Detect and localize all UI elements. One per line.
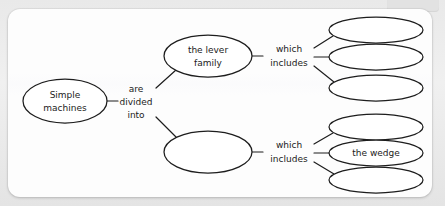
link-are-divided-into-line3: into	[127, 110, 145, 120]
node-lever-child-3[interactable]	[329, 75, 423, 101]
link-are-divided-into-line2: divided	[119, 97, 152, 107]
concept-map-diagram: Simple machines are divided into the lev…	[0, 0, 445, 206]
link-unnamed-which-includes-line1: which	[276, 140, 302, 150]
node-lever-child-3-shape[interactable]	[329, 75, 423, 101]
node-lever-family-shape[interactable]	[164, 35, 252, 77]
node-wedge-sibling-2[interactable]	[329, 167, 423, 193]
node-the-wedge[interactable]: the wedge	[329, 140, 423, 166]
connector-unnamed-child-3	[314, 162, 334, 174]
node-the-wedge-label: the wedge	[352, 148, 400, 158]
link-lever-which-includes-line1: which	[276, 44, 302, 54]
link-are-divided-into: are divided into	[119, 84, 152, 120]
node-simple-machines[interactable]: Simple machines	[23, 79, 107, 123]
link-are-divided-into-line1: are	[129, 84, 144, 94]
node-unnamed-branch[interactable]	[164, 131, 252, 173]
node-lever-child-2-shape[interactable]	[329, 44, 423, 70]
node-wedge-sibling-1-shape[interactable]	[329, 114, 423, 140]
page-background: Simple machines are divided into the lev…	[0, 0, 445, 206]
node-lever-family-label-line2: family	[194, 58, 222, 68]
link-lever-which-includes: which includes	[270, 44, 308, 68]
node-lever-child-1-shape[interactable]	[329, 17, 423, 43]
link-unnamed-which-includes: which includes	[270, 140, 308, 164]
node-lever-child-2[interactable]	[329, 44, 423, 70]
node-simple-machines-label-line2: machines	[43, 103, 87, 113]
connector-root-to-unnamed	[156, 117, 176, 137]
connector-lever-child-1	[314, 36, 333, 48]
link-unnamed-which-includes-line2: includes	[270, 154, 308, 164]
node-lever-child-1[interactable]	[329, 17, 423, 43]
node-wedge-sibling-1[interactable]	[329, 114, 423, 140]
node-simple-machines-shape[interactable]	[23, 79, 107, 123]
node-wedge-sibling-2-shape[interactable]	[329, 167, 423, 193]
link-lever-which-includes-line2: includes	[270, 58, 308, 68]
connector-lever-child-3	[314, 66, 334, 82]
node-unnamed-branch-shape[interactable]	[164, 131, 252, 173]
node-lever-family-label-line1: the lever	[188, 45, 229, 55]
connector-unnamed-child-1	[314, 133, 333, 144]
node-simple-machines-label-line1: Simple	[50, 90, 81, 100]
connector-root-to-lever	[156, 70, 176, 88]
node-lever-family[interactable]: the lever family	[164, 35, 252, 77]
